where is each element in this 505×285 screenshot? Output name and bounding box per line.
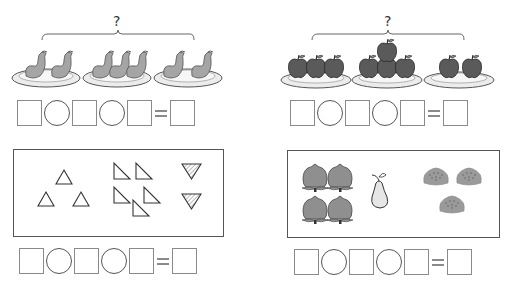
- fruits-frame: [287, 150, 500, 238]
- operator-circle[interactable]: [376, 249, 402, 275]
- hatched-triangle-icon: [182, 164, 201, 209]
- equals-sign: [427, 100, 441, 126]
- result-box[interactable]: [172, 248, 197, 274]
- equals-sign: [431, 249, 445, 275]
- answer-box[interactable]: [404, 249, 429, 275]
- result-box[interactable]: [447, 249, 472, 275]
- answer-box[interactable]: [290, 100, 315, 126]
- triangles-frame: [13, 149, 224, 237]
- pear-icon: [372, 173, 388, 208]
- upright-triangle-icon: [38, 170, 89, 206]
- plate-3: [424, 55, 494, 88]
- question-mark: ?: [113, 14, 120, 28]
- peach-icon: [302, 164, 353, 224]
- answer-box[interactable]: [127, 100, 152, 126]
- answer-box[interactable]: [129, 248, 154, 274]
- answer-box[interactable]: [400, 100, 425, 126]
- answer-box[interactable]: [72, 100, 97, 126]
- banana-plates-illustration: [12, 50, 242, 90]
- question-mark: ?: [384, 14, 391, 28]
- plate-3: [154, 51, 222, 87]
- answer-box[interactable]: [74, 248, 99, 274]
- result-box[interactable]: [170, 100, 195, 126]
- brace-icon: [40, 30, 200, 42]
- operator-circle[interactable]: [101, 248, 127, 274]
- equation-row-3: [19, 248, 197, 274]
- operator-circle[interactable]: [372, 100, 398, 126]
- equation-row-1: [17, 100, 195, 126]
- result-box[interactable]: [443, 100, 468, 126]
- apple-plates-illustration: [282, 38, 502, 93]
- equals-sign: [156, 248, 170, 274]
- right-triangle-icon: [114, 163, 160, 216]
- answer-box[interactable]: [349, 249, 374, 275]
- answer-box[interactable]: [294, 249, 319, 275]
- operator-circle[interactable]: [46, 248, 72, 274]
- operator-circle[interactable]: [99, 100, 125, 126]
- plate-2: [352, 39, 422, 88]
- triangles-illustration: [14, 150, 225, 238]
- answer-box[interactable]: [345, 100, 370, 126]
- plate-1: [12, 51, 80, 87]
- plate-2: [83, 51, 151, 87]
- fruits-illustration: [288, 151, 501, 239]
- operator-circle[interactable]: [317, 100, 343, 126]
- equation-row-2: [290, 100, 468, 126]
- answer-box[interactable]: [17, 100, 42, 126]
- operator-circle[interactable]: [321, 249, 347, 275]
- equals-sign: [154, 100, 168, 126]
- plate-1: [281, 55, 351, 88]
- bun-icon: [424, 168, 482, 213]
- equation-row-4: [294, 249, 472, 275]
- answer-box[interactable]: [19, 248, 44, 274]
- operator-circle[interactable]: [44, 100, 70, 126]
